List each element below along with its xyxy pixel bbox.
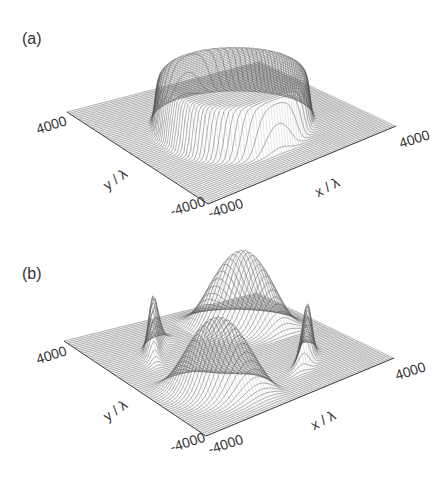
panel-b: (b) 4000 -4000 -4000 4000 y / λ x / λ — [0, 235, 448, 477]
panel-a: (a) 4000 -4000 -4000 4000 y / λ x / λ — [0, 0, 448, 235]
panel-label-a: (a) — [22, 30, 42, 48]
panel-label-b: (b) — [22, 265, 42, 283]
